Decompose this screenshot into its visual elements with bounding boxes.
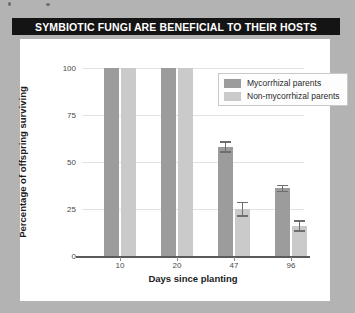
error-bar-mycorrhizal-96 — [277, 185, 288, 193]
y-tick-75: 75 — [67, 111, 76, 120]
legend-swatch-mycorrhizal — [224, 79, 241, 88]
y-axis-title: Percentage of offspring surviving — [16, 68, 30, 256]
y-tick-50: 50 — [67, 158, 76, 167]
y-axis-ticks: 0 25 50 75 100 — [42, 68, 76, 256]
x-tick-47: 47 — [214, 261, 254, 270]
x-tick-10: 10 — [100, 261, 140, 270]
figure: SYMBIOTIC FUNGI ARE BENEFICIAL TO THEIR … — [0, 0, 355, 313]
page-title: SYMBIOTIC FUNGI ARE BENEFICIAL TO THEIR … — [35, 21, 317, 33]
chart-panel: Percentage of offspring surviving 0 25 5… — [20, 39, 330, 301]
legend-item-mycorrhizal: Mycorrhizal parents — [224, 78, 340, 88]
x-tick-20: 20 — [157, 261, 197, 270]
chart-legend: Mycorrhizal parents Non-mycorrhizal pare… — [218, 73, 348, 106]
page-specks — [6, 2, 116, 9]
x-axis-title: Days since planting — [82, 273, 304, 284]
bar-non-mycorrhizal-10 — [121, 68, 136, 256]
y-tick-100: 100 — [63, 64, 76, 73]
bar-mycorrhizal-96 — [275, 188, 290, 256]
x-axis-line — [76, 256, 310, 258]
legend-label-mycorrhizal: Mycorrhizal parents — [247, 78, 321, 88]
legend-swatch-non-mycorrhizal — [224, 92, 241, 101]
plot-area: 10 20 47 96 Mycorrhizal parents Non-myco… — [82, 68, 304, 256]
error-bar-non-mycorrhizal-96 — [294, 220, 305, 231]
error-bar-mycorrhizal-47 — [220, 141, 231, 152]
bar-mycorrhizal-47 — [218, 147, 233, 256]
x-tick-96: 96 — [271, 261, 311, 270]
y-tick-25: 25 — [67, 205, 76, 214]
bar-mycorrhizal-10 — [104, 68, 119, 256]
chart-title-bar: SYMBIOTIC FUNGI ARE BENEFICIAL TO THEIR … — [12, 18, 340, 35]
error-bar-non-mycorrhizal-47 — [237, 202, 248, 217]
legend-label-non-mycorrhizal: Non-mycorrhizal parents — [247, 91, 340, 101]
bar-mycorrhizal-20 — [161, 68, 176, 256]
legend-item-non-mycorrhizal: Non-mycorrhizal parents — [224, 91, 340, 101]
bar-non-mycorrhizal-20 — [178, 68, 193, 256]
